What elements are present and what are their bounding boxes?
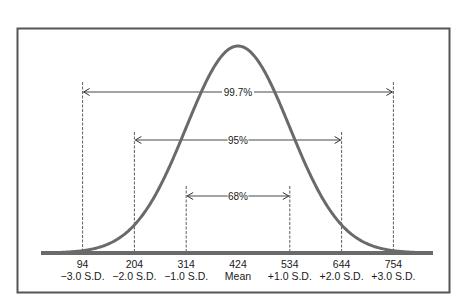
tick-value: 644	[333, 258, 351, 270]
tick-label: +2.0 S.D.	[320, 270, 364, 282]
tick-value: 424	[229, 258, 247, 270]
normal-distribution-diagram: 99.7%95%68% 94−3.0 S.D.204−2.0 S.D.314−1…	[0, 0, 460, 304]
tick-value: 94	[77, 258, 89, 270]
tick-label: +3.0 S.D.	[371, 270, 415, 282]
tick-value: 314	[177, 258, 195, 270]
interval-label: 68%	[228, 191, 248, 202]
tick-label: −1.0 S.D.	[164, 270, 208, 282]
tick-label: Mean	[225, 270, 251, 282]
tick-label: −2.0 S.D.	[112, 270, 156, 282]
tick-label: +1.0 S.D.	[268, 270, 312, 282]
tick-value: 754	[385, 258, 403, 270]
tick-value: 204	[126, 258, 144, 270]
tick-value: 534	[281, 258, 299, 270]
interval-label: 95%	[228, 135, 248, 146]
tick-label: −3.0 S.D.	[61, 270, 105, 282]
interval-label: 99.7%	[224, 87, 252, 98]
